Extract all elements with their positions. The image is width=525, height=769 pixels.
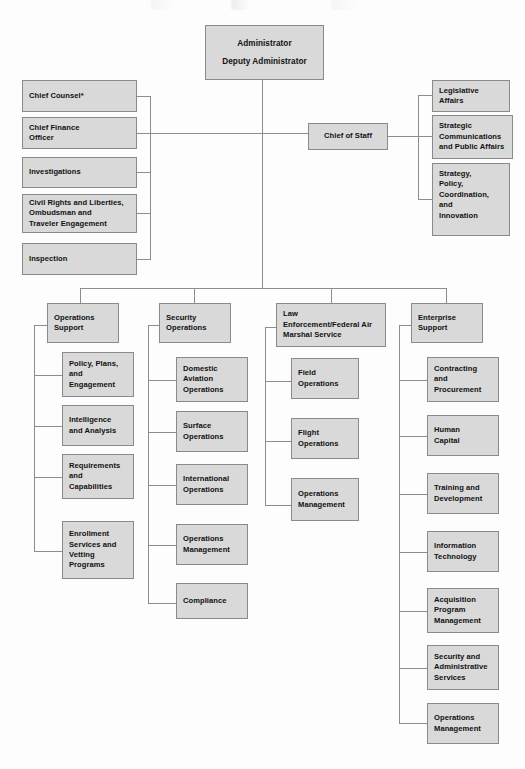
- node-inspection[interactable]: Inspection: [22, 243, 137, 275]
- connector-operations-management-security-stub: [148, 545, 177, 546]
- node-security-and-administrative-services[interactable]: Security and Administrative Services: [427, 645, 499, 690]
- node-law-enforcement-federal-air-marshal-service[interactable]: Law Enforcement/Federal Air Marshal Serv…: [276, 303, 386, 347]
- connector-left-bus-to-spine: [150, 133, 263, 134]
- node-label: Acquisition Program Management: [434, 595, 493, 626]
- connector-spine-to-chief-of-staff: [262, 133, 309, 134]
- connector-acquisition-program-stub: [399, 611, 428, 612]
- node-label: Compliance: [183, 596, 242, 606]
- node-flight-operations[interactable]: Flight Operations: [291, 418, 359, 459]
- node-policy-plans-and-engagement[interactable]: Policy, Plans, and Engagement: [62, 352, 134, 397]
- node-strategy-policy-coordination[interactable]: Strategy, Policy, Coordination, and Inno…: [432, 163, 510, 236]
- node-training-and-development[interactable]: Training and Development: [427, 473, 499, 514]
- node-label: Contracting and Procurement: [434, 364, 493, 395]
- node-label: Legislative Affairs: [439, 86, 504, 107]
- connector-international-operations-stub: [148, 485, 177, 486]
- node-investigations[interactable]: Investigations: [22, 157, 137, 188]
- node-chief-of-staff[interactable]: Chief of Staff: [308, 123, 388, 150]
- node-label: Operations Management: [434, 713, 493, 734]
- connector-chief-counsel-stub: [137, 96, 151, 97]
- connector-chief-finance-stub: [137, 133, 151, 134]
- node-compliance[interactable]: Compliance: [176, 583, 248, 619]
- node-label: Security Operations: [166, 313, 225, 334]
- node-enrollment-services-and-vetting-programs[interactable]: Enrollment Services and Vetting Programs: [62, 521, 134, 579]
- connector-root-spine: [262, 80, 263, 288]
- node-label: Human Capital: [434, 425, 493, 446]
- node-label: International Operations: [183, 474, 242, 495]
- connector-operations-management-le-stub: [265, 505, 292, 506]
- connector-law-enforcement-rail: [265, 327, 266, 505]
- node-label: Enterprise Support: [418, 313, 477, 334]
- connector-division-bus: [80, 288, 447, 289]
- connector-operations-support-head: [34, 325, 48, 326]
- node-label: Policy, Plans, and Engagement: [69, 359, 128, 390]
- node-operations-management-security[interactable]: Operations Management: [176, 524, 248, 565]
- node-label: Flight Operations: [298, 428, 353, 449]
- node-label: Surface Operations: [183, 421, 242, 442]
- connector-policy-plans-stub: [34, 375, 63, 376]
- connector-strategic-comms-stub: [418, 136, 433, 137]
- scan-artifact: [0, 0, 525, 10]
- node-chief-finance-officer[interactable]: Chief Finance Officer: [22, 117, 137, 149]
- node-intelligence-and-analysis[interactable]: Intelligence and Analysis: [62, 405, 134, 446]
- node-domestic-aviation-operations[interactable]: Domestic Aviation Operations: [176, 357, 248, 402]
- node-operations-support[interactable]: Operations Support: [47, 303, 119, 343]
- connector-information-technology-stub: [399, 552, 428, 553]
- node-label: Civil Rights and Liberties, Ombudsman an…: [29, 198, 131, 229]
- node-label: Strategy, Policy, Coordination, and Inno…: [439, 169, 504, 221]
- node-label: Inspection: [29, 254, 131, 264]
- connector-requirements-stub: [34, 477, 63, 478]
- connector-compliance-stub: [148, 603, 177, 604]
- connector-surface-operations-stub: [148, 432, 177, 433]
- org-chart: Administrator Deputy Administrator Chief…: [0, 0, 525, 769]
- connector-right-bus: [418, 95, 419, 199]
- node-label: Operations Management: [298, 489, 353, 510]
- node-label: Intelligence and Analysis: [69, 415, 128, 436]
- node-label: Operations Management: [183, 534, 242, 555]
- node-enterprise-support[interactable]: Enterprise Support: [411, 303, 483, 343]
- node-human-capital[interactable]: Human Capital: [427, 415, 499, 456]
- node-label: Field Operations: [298, 368, 353, 389]
- connector-training-development-stub: [399, 494, 428, 495]
- node-label: Law Enforcement/Federal Air Marshal Serv…: [283, 309, 380, 340]
- connector-legislative-stub: [418, 95, 433, 96]
- node-information-technology[interactable]: Information Technology: [427, 531, 499, 572]
- node-requirements-and-capabilities[interactable]: Requirements and Capabilities: [62, 454, 134, 499]
- connector-security-administrative-stub: [399, 668, 428, 669]
- node-field-operations[interactable]: Field Operations: [291, 358, 359, 399]
- node-label: Chief of Staff: [324, 131, 372, 141]
- administrator-line-2: Deputy Administrator: [222, 53, 306, 71]
- connector-drop-law-enforcement: [331, 288, 332, 303]
- node-label: Security and Administrative Services: [434, 652, 493, 683]
- node-administrator[interactable]: Administrator Deputy Administrator: [205, 25, 324, 80]
- connector-drop-enterprise-support: [446, 288, 447, 303]
- connector-enrollment-stub: [34, 551, 63, 552]
- node-label: Chief Finance Officer: [29, 123, 131, 144]
- connector-investigations-stub: [137, 172, 151, 173]
- connector-chief-of-staff-to-right-bus: [388, 136, 419, 137]
- connector-left-bus: [150, 96, 151, 259]
- node-security-operations[interactable]: Security Operations: [159, 303, 231, 343]
- connector-operations-support-rail: [34, 325, 35, 551]
- node-label: Chief Counsel*: [29, 91, 131, 101]
- node-strategic-communications[interactable]: Strategic Communications and Public Affa…: [432, 115, 513, 159]
- node-operations-management-law-enforcement[interactable]: Operations Management: [291, 478, 359, 521]
- node-operations-management-enterprise[interactable]: Operations Management: [427, 703, 499, 744]
- node-label: Information Technology: [434, 541, 493, 562]
- node-surface-operations[interactable]: Surface Operations: [176, 411, 248, 452]
- connector-civil-rights-stub: [137, 213, 151, 214]
- node-international-operations[interactable]: International Operations: [176, 464, 248, 505]
- administrator-line-1: Administrator: [237, 35, 291, 53]
- connector-human-capital-stub: [399, 436, 428, 437]
- connector-intelligence-stub: [34, 426, 63, 427]
- node-label: Enrollment Services and Vetting Programs: [69, 529, 128, 571]
- node-label: Requirements and Capabilities: [69, 461, 128, 492]
- node-contracting-and-procurement[interactable]: Contracting and Procurement: [427, 357, 499, 402]
- node-legislative-affairs[interactable]: Legislative Affairs: [432, 80, 510, 112]
- connector-drop-security-operations: [194, 288, 195, 303]
- node-label: Strategic Communications and Public Affa…: [439, 121, 507, 152]
- node-civil-rights-liberties[interactable]: Civil Rights and Liberties, Ombudsman an…: [22, 194, 137, 233]
- connector-operations-management-enterprise-stub: [399, 723, 428, 724]
- node-acquisition-program-management[interactable]: Acquisition Program Management: [427, 588, 499, 633]
- connector-domestic-aviation-stub: [148, 380, 177, 381]
- node-chief-counsel[interactable]: Chief Counsel*: [22, 80, 137, 112]
